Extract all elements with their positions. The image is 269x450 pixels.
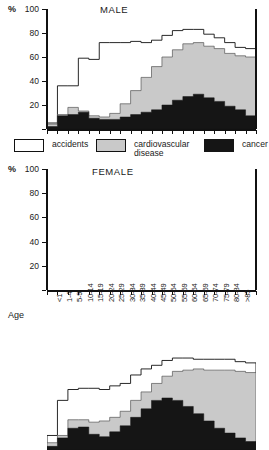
x-tick-label-35-39: 35-39 [138, 284, 147, 302]
y-tick-label-male-60: 60 [13, 53, 39, 61]
chart-panel-male: % MALE 20406080100 [0, 0, 266, 134]
x-axis-title: Age [8, 310, 24, 320]
stacked-step-area-female [47, 329, 256, 450]
x-tick-label-5-9: 5-9 [75, 292, 84, 302]
y-tick-label-female-60: 60 [13, 213, 39, 221]
y-tick-female-0 [42, 290, 46, 291]
x-tick-label-15-19: 15-19 [96, 284, 105, 302]
x-tick-male-3 [78, 130, 79, 134]
x-tick-female-0 [47, 291, 48, 295]
x-tick-male-15 [204, 130, 205, 134]
y-tick-female-20 [42, 266, 46, 267]
y-tick-female-60 [42, 217, 46, 218]
x-tick-label-30-34: 30-34 [128, 284, 137, 302]
x-tick-label-40-44: 40-44 [149, 284, 158, 302]
x-tick-male-19 [246, 130, 247, 134]
y-tick-male-100 [42, 9, 46, 10]
legend-swatch-cardiovascular-disease-icon [96, 139, 126, 152]
x-tick-male-11 [162, 130, 163, 134]
x-tick-male-20 [256, 130, 257, 134]
x-tick-label-45-49: 45-49 [159, 284, 168, 302]
chart-panel-female: % FEMALE 20406080100 [0, 160, 266, 300]
x-tick-label-10-14: 10-14 [86, 284, 95, 302]
y-tick-male-60 [42, 57, 46, 58]
x-tick-label-70-74: 70-74 [211, 284, 220, 302]
x-tick-male-0 [47, 130, 48, 134]
x-tick-label-1-4: 1-4 [65, 292, 74, 302]
x-tick-male-2 [68, 130, 69, 134]
chart-legend: accidents cardiovascular disease cancer [0, 138, 266, 160]
x-tick-male-7 [120, 130, 121, 134]
x-tick-label-80-84: 80-84 [232, 284, 241, 302]
y-tick-male-20 [42, 105, 46, 106]
x-tick-male-10 [152, 130, 153, 134]
x-tick-label-55-59: 55-59 [180, 284, 189, 302]
right-axis-line-male [255, 9, 257, 129]
x-tick-male-5 [99, 130, 100, 134]
legend-label-accidents: accidents [52, 140, 88, 149]
y-tick-label-female-80: 80 [13, 189, 39, 197]
y-tick-male-40 [42, 81, 46, 82]
x-tick-male-17 [225, 130, 226, 134]
x-tick-male-6 [110, 130, 111, 134]
plot-area-female [47, 329, 256, 450]
legend-label-cardiovascular-disease: cardiovascular disease [134, 140, 189, 159]
legend-swatch-cancer-icon [204, 139, 234, 152]
y-tick-female-100 [42, 169, 46, 170]
y-axis-line-female [46, 169, 48, 290]
y-tick-male-80 [42, 33, 46, 34]
x-tick-male-13 [183, 130, 184, 134]
x-tick-male-1 [57, 130, 58, 134]
y-tick-label-male-100: 100 [13, 5, 39, 13]
x-tick-label-1: <1 [55, 294, 64, 302]
legend-swatch-accidents-icon [14, 139, 44, 152]
x-tick-male-18 [235, 130, 236, 134]
x-tick-label-60-64: 60-64 [190, 284, 199, 302]
y-tick-female-80 [42, 193, 46, 194]
x-tick-label-85: >85 [243, 290, 252, 302]
y-tick-male-0 [42, 129, 46, 130]
right-axis-line-female [255, 169, 257, 290]
y-tick-label-male-80: 80 [13, 29, 39, 37]
x-tick-label-65-69: 65-69 [201, 284, 210, 302]
stacked-step-area-male [47, 9, 256, 129]
x-tick-label-20-24: 20-24 [107, 284, 116, 302]
x-tick-male-4 [89, 130, 90, 134]
x-tick-label-75-79: 75-79 [222, 284, 231, 302]
y-axis-line-male [46, 9, 48, 129]
x-tick-male-8 [131, 130, 132, 134]
x-tick-male-12 [172, 130, 173, 134]
x-tick-male-16 [214, 130, 215, 134]
plot-area-male [47, 9, 256, 129]
x-tick-male-14 [193, 130, 194, 134]
y-tick-label-female-100: 100 [13, 165, 39, 173]
y-tick-label-male-20: 20 [13, 101, 39, 109]
y-tick-label-female-20: 20 [13, 262, 39, 270]
y-tick-female-40 [42, 242, 46, 243]
panel-title-female: FEMALE [92, 166, 134, 177]
y-tick-label-male-40: 40 [13, 77, 39, 85]
x-tick-female-20 [256, 291, 257, 295]
x-tick-label-50-54: 50-54 [169, 284, 178, 302]
x-tick-label-25-29: 25-29 [117, 284, 126, 302]
x-tick-male-9 [141, 130, 142, 134]
legend-label-cancer: cancer [242, 140, 268, 149]
y-tick-label-female-40: 40 [13, 238, 39, 246]
